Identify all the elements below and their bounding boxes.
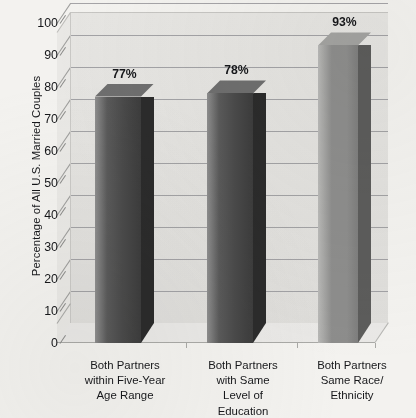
bar-front-face <box>207 93 253 343</box>
category-label-line: Ethnicity <box>292 388 412 403</box>
x-axis-tick-mark <box>186 343 187 348</box>
category-label-line: Both Partners <box>180 358 306 373</box>
bar-value-label: 78% <box>207 63 267 77</box>
bar-front-face <box>318 45 358 343</box>
category-label-line: Level of <box>180 388 306 403</box>
x-axis-tick-mark <box>375 343 376 348</box>
plot-top-edge <box>70 12 388 13</box>
y-axis-tick-label: 100 <box>22 17 58 29</box>
plot-left-edge <box>70 12 71 323</box>
bar-side-face <box>358 45 371 343</box>
gridline <box>70 3 388 4</box>
bar-chart: 77%78%93% 1009080706050403020100 Percent… <box>0 0 416 418</box>
x-axis-category-label: Both PartnersSame Race/Ethnicity <box>292 358 412 404</box>
bar: 93% <box>318 32 358 343</box>
bar-side-face <box>253 93 266 343</box>
y-axis-tick-label: 0 <box>22 337 58 349</box>
bar-value-label: 77% <box>95 67 155 81</box>
category-label-line: Education <box>180 404 306 418</box>
x-axis-tick-mark <box>297 343 298 348</box>
y-axis-title: Percentage of All U.S. Married Couples <box>30 36 42 316</box>
category-label-line: with Same <box>180 373 306 388</box>
category-label-line: Both Partners <box>55 358 195 373</box>
bar-side-face <box>141 97 154 343</box>
category-label-line: within Five-Year <box>55 373 195 388</box>
x-axis-category-label: Both Partnerswithin Five-YearAge Range <box>55 358 195 404</box>
bar: 77% <box>95 84 141 343</box>
category-label-line: Same Race/ <box>292 373 412 388</box>
x-axis-category-label: Both Partnerswith SameLevel ofEducation <box>180 358 306 418</box>
bar-value-label: 93% <box>315 15 375 29</box>
bar: 78% <box>207 80 253 343</box>
category-label-line: Both Partners <box>292 358 412 373</box>
category-label-line: Age Range <box>55 388 195 403</box>
bar-front-face <box>95 97 141 343</box>
